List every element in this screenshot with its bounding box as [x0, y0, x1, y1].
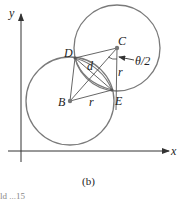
label-b-point: B [58, 95, 66, 109]
segment-dc [75, 48, 117, 58]
label-r-vertical: r [118, 65, 123, 79]
figure-caption: (b) [82, 175, 95, 188]
label-r-horizontal: r [89, 95, 94, 109]
y-axis-label: y [8, 6, 15, 20]
segment-bc [70, 48, 117, 101]
angle-pointer [119, 57, 134, 60]
label-d-distance: d [87, 59, 94, 73]
point-e [111, 89, 114, 92]
point-b [68, 99, 72, 103]
diagram-canvas: y x D C B E d r r θ/2 (b) ld ...15 [0, 0, 179, 200]
segment-db [70, 58, 75, 101]
point-d [74, 57, 77, 60]
footer-fragment: ld ...15 [0, 191, 26, 200]
x-axis-label: x [170, 144, 177, 158]
label-d-point: D [63, 46, 73, 60]
label-c-point: C [118, 34, 127, 48]
label-angle: θ/2 [135, 54, 150, 68]
label-e-point: E [114, 94, 123, 108]
angle-arc [108, 57, 117, 59]
